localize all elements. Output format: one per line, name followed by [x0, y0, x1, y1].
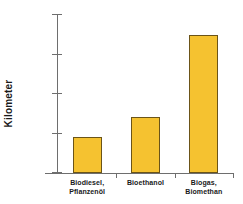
x-axis-line	[45, 173, 233, 174]
bar-chart: Kilometer 020.00040.00060.00080.000 Biod…	[0, 0, 243, 204]
bar	[73, 137, 102, 173]
x-axis-category-label: Bioethanol	[116, 178, 174, 187]
category-label-line: Biogas,	[191, 179, 217, 186]
y-axis-title: Kilometer	[2, 58, 16, 148]
category-label-line: Pflanzenöl	[58, 187, 116, 196]
category-label-line: Bioethanol	[127, 179, 164, 186]
bars-group	[58, 15, 233, 173]
x-axis-tick-mark	[233, 173, 234, 178]
x-axis-category-label: Biodiesel,Pflanzenöl	[58, 178, 116, 196]
y-axis-title-label: Kilometer	[4, 79, 15, 127]
x-axis-category-label: Biogas,Biomethan	[175, 178, 233, 196]
bar	[131, 117, 160, 173]
category-label-line: Biomethan	[175, 187, 233, 196]
category-label-line: Biodiesel,	[70, 179, 104, 186]
bar	[189, 35, 218, 173]
